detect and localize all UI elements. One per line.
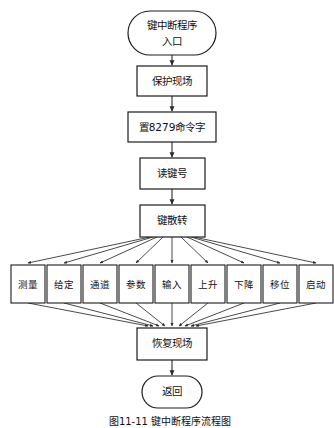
- figure-caption: 图11-11 键中断程序流程图: [109, 415, 231, 427]
- branch-8-label: 移位: [270, 279, 290, 290]
- branch-boxes: 测量 给定 通道 参数 输入 上升: [11, 265, 333, 303]
- branch-6-label: 上升: [198, 279, 218, 290]
- fanout-1: [28, 237, 150, 263]
- dispatch-label: 键散转: [157, 214, 188, 226]
- branch-7-label: 下降: [234, 279, 254, 290]
- fanout-connectors: [28, 237, 316, 263]
- read-key-label: 读键号: [157, 167, 187, 179]
- save-context-label: 保护现场: [152, 75, 192, 87]
- node-save-context: 保护现场: [137, 66, 207, 96]
- entry-label-line2: 入口: [162, 35, 182, 47]
- return-label: 返回: [162, 385, 182, 397]
- node-dispatch: 键散转: [140, 205, 205, 237]
- branch-3-label: 通道: [90, 279, 110, 290]
- branch-box-1: 测量: [11, 265, 45, 303]
- node-read-key: 读键号: [140, 158, 205, 189]
- branch-box-2: 给定: [47, 265, 81, 303]
- fanout-9: [194, 237, 316, 263]
- branch-4-label: 参数: [126, 279, 146, 290]
- branch-box-8: 移位: [263, 265, 297, 303]
- branch-box-5: 输入: [155, 265, 189, 303]
- branch-5-label: 输入: [162, 279, 182, 290]
- flowchart-figure: 键中断程序 入口 保护现场 置8279命令字 读键号 键散转 测量: [0, 0, 334, 428]
- fanin-connectors: [28, 303, 316, 326]
- branch-box-4: 参数: [119, 265, 153, 303]
- node-entry: 键中断程序 入口: [128, 11, 216, 55]
- entry-label-line1: 键中断程序: [147, 19, 197, 31]
- restore-context-label: 恢复现场: [152, 337, 192, 349]
- branch-2-label: 给定: [54, 279, 74, 290]
- entry-terminator-shape: [128, 11, 216, 55]
- branch-box-6: 上升: [191, 265, 225, 303]
- set-8279-label: 置8279命令字: [139, 121, 206, 133]
- branch-1-label: 测量: [18, 279, 38, 290]
- flowchart-canvas: 键中断程序 入口 保护现场 置8279命令字 读键号 键散转 测量: [0, 0, 334, 428]
- branch-box-9: 启动: [299, 265, 333, 303]
- node-restore-context: 恢复现场: [137, 328, 207, 360]
- branch-box-3: 通道: [83, 265, 117, 303]
- node-set-8279: 置8279命令字: [128, 112, 216, 142]
- node-return: 返回: [142, 376, 202, 408]
- branch-box-7: 下降: [227, 265, 261, 303]
- branch-9-label: 启动: [306, 279, 326, 290]
